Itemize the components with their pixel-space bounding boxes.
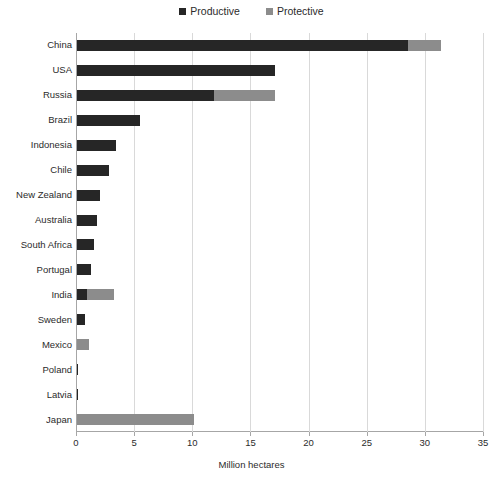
legend-swatch-icon	[266, 8, 273, 15]
bar-segment-productive[interactable]	[77, 115, 140, 126]
chart-legend: ProductiveProtective	[0, 6, 503, 17]
legend-label: Protective	[277, 6, 324, 17]
legend-label: Productive	[190, 6, 240, 17]
category-label-brazil: Brazil	[0, 115, 72, 125]
bar-segment-productive[interactable]	[77, 65, 275, 76]
category-label-poland: Poland	[0, 365, 72, 375]
x-axis-tick	[309, 432, 310, 436]
bar-segment-productive[interactable]	[77, 215, 97, 226]
category-label-australia: Australia	[0, 215, 72, 225]
bar-row[interactable]	[76, 414, 483, 425]
x-axis-tick	[192, 432, 193, 436]
bar-segment-protective[interactable]	[214, 90, 274, 101]
x-axis-line	[76, 431, 484, 432]
x-axis-tick	[250, 432, 251, 436]
category-label-russia: Russia	[0, 90, 72, 100]
category-label-new-zealand: New Zealand	[0, 190, 72, 200]
bar-row[interactable]	[76, 40, 483, 51]
bar-row[interactable]	[76, 215, 483, 226]
legend-item-productive[interactable]: Productive	[179, 6, 240, 17]
bar-segment-protective[interactable]	[87, 289, 114, 300]
bar-chart: ProductiveProtective ChinaUSARussiaBrazi…	[0, 0, 503, 484]
category-label-sweden: Sweden	[0, 315, 72, 325]
bar-row[interactable]	[76, 239, 483, 250]
bar-segment-productive[interactable]	[77, 389, 78, 400]
bar-segment-productive[interactable]	[77, 190, 100, 201]
x-tick-label: 5	[131, 438, 136, 448]
bar-segment-productive[interactable]	[77, 239, 94, 250]
bar-segment-protective[interactable]	[408, 40, 441, 51]
bar-segment-protective[interactable]	[77, 339, 89, 350]
bar-row[interactable]	[76, 165, 483, 176]
legend-item-protective[interactable]: Protective	[266, 6, 324, 17]
category-label-portugal: Portugal	[0, 265, 72, 275]
bar-segment-productive[interactable]	[77, 165, 109, 176]
x-tick-label: 15	[245, 438, 256, 448]
category-axis-labels: ChinaUSARussiaBrazilIndonesiaChileNew Ze…	[0, 33, 72, 432]
bar-row[interactable]	[76, 190, 483, 201]
category-label-chile: Chile	[0, 165, 72, 175]
x-tick-label: 0	[73, 438, 78, 448]
category-label-india: India	[0, 290, 72, 300]
x-axis-title: Million hectares	[0, 459, 503, 470]
x-axis-tick	[483, 432, 484, 436]
x-tick-label: 20	[303, 438, 314, 448]
x-tick-label: 30	[420, 438, 431, 448]
bar-segment-productive[interactable]	[77, 140, 116, 151]
plot-area	[76, 33, 483, 432]
bar-segment-productive[interactable]	[77, 40, 408, 51]
bar-row[interactable]	[76, 364, 483, 375]
bar-segment-productive[interactable]	[77, 314, 85, 325]
legend-swatch-icon	[179, 8, 186, 15]
x-tick-label: 10	[187, 438, 198, 448]
x-axis-tick	[134, 432, 135, 436]
bar-row[interactable]	[76, 90, 483, 101]
bar-row[interactable]	[76, 339, 483, 350]
x-tick-label: 25	[361, 438, 372, 448]
bar-segment-productive[interactable]	[77, 264, 91, 275]
bar-row[interactable]	[76, 314, 483, 325]
x-axis-tick	[425, 432, 426, 436]
bar-segment-productive[interactable]	[77, 289, 87, 300]
category-label-mexico: Mexico	[0, 340, 72, 350]
bar-row[interactable]	[76, 65, 483, 76]
bar-row[interactable]	[76, 389, 483, 400]
category-label-latvia: Latvia	[0, 390, 72, 400]
x-tick-label: 35	[478, 438, 489, 448]
category-label-indonesia: Indonesia	[0, 140, 72, 150]
bar-row[interactable]	[76, 264, 483, 275]
x-axis-tick	[76, 432, 77, 436]
bar-segment-protective[interactable]	[77, 414, 194, 425]
bar-row[interactable]	[76, 289, 483, 300]
bar-segment-productive[interactable]	[77, 90, 214, 101]
bar-segment-productive[interactable]	[77, 364, 78, 375]
category-label-usa: USA	[0, 65, 72, 75]
bar-row[interactable]	[76, 115, 483, 126]
category-label-china: China	[0, 40, 72, 50]
x-axis-tick-labels: 05101520253035	[0, 438, 503, 452]
bar-row[interactable]	[76, 140, 483, 151]
x-axis-tick	[367, 432, 368, 436]
category-label-japan: Japan	[0, 415, 72, 425]
gridline	[483, 33, 484, 432]
category-label-south-africa: South Africa	[0, 240, 72, 250]
